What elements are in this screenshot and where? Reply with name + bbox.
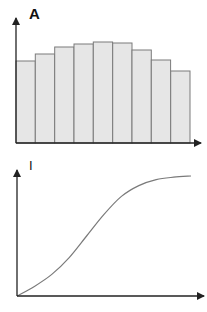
y-axis-label-i: I [29, 158, 33, 173]
bar [113, 43, 132, 143]
bar [132, 50, 151, 143]
bar [55, 47, 74, 143]
bar [74, 44, 93, 143]
y-axis-label-a: A [29, 5, 40, 22]
saturation-curve [17, 176, 191, 296]
figure-canvas [0, 0, 207, 312]
bar [35, 54, 54, 143]
bar [151, 60, 170, 143]
bar [16, 61, 35, 143]
bar [171, 71, 190, 143]
bar [93, 42, 112, 143]
bar-series [16, 42, 190, 143]
